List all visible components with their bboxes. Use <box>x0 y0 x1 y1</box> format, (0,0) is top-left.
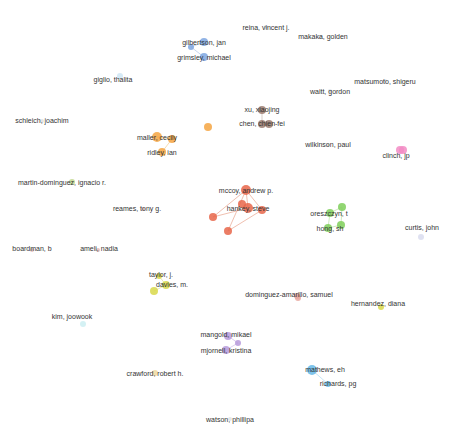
node-label[interactable]: matsumoto, shigeru <box>354 78 415 85</box>
node-label[interactable]: chen, chien-fei <box>239 120 285 127</box>
node-label[interactable]: davies, m. <box>156 281 188 288</box>
network-node[interactable] <box>418 234 424 240</box>
node-label[interactable]: mathews, eh <box>305 366 345 373</box>
node-label[interactable]: mccoy, andrew p. <box>219 187 273 194</box>
network-node[interactable] <box>224 227 232 235</box>
node-label[interactable]: hernandez, diana <box>351 300 405 307</box>
node-label[interactable]: ameli, nadia <box>80 245 118 252</box>
node-label[interactable]: reina, vincent j. <box>242 24 289 31</box>
network-node[interactable] <box>209 213 217 221</box>
network-node[interactable] <box>235 340 241 346</box>
node-label[interactable]: oreszczyn, t <box>310 210 347 217</box>
network-node[interactable] <box>150 287 158 295</box>
node-label[interactable]: curtis, john <box>405 224 439 231</box>
node-label[interactable]: clinch, jp <box>382 152 409 159</box>
node-label[interactable]: wilkinson, paul <box>305 141 351 148</box>
node-label[interactable]: taylor, j. <box>149 271 173 278</box>
node-label[interactable]: reames, tony g. <box>113 205 161 212</box>
network-node[interactable] <box>204 123 212 131</box>
network-canvas[interactable]: reina, vincent j.makaka, goldengilbertso… <box>0 0 465 435</box>
node-label[interactable]: maller, cecily <box>137 134 177 141</box>
node-label[interactable]: giglio, thalita <box>94 76 133 83</box>
node-label[interactable]: hankey, steve <box>227 205 270 212</box>
network-node[interactable] <box>80 321 86 327</box>
node-label[interactable]: schleich, joachim <box>15 117 68 124</box>
node-label[interactable]: dominguez-amarillo, samuel <box>245 291 333 298</box>
node-label[interactable]: waitt, gordon <box>310 88 350 95</box>
node-label[interactable]: makaka, golden <box>298 33 347 40</box>
edge-layer <box>0 0 465 435</box>
node-label[interactable]: kim, joowook <box>52 313 92 320</box>
node-label[interactable]: grimsley, michael <box>177 54 231 61</box>
node-label[interactable]: richards, pg <box>320 380 357 387</box>
node-label[interactable]: mangold, mikael <box>201 331 252 338</box>
node-label[interactable]: watson, phillipa <box>206 416 254 423</box>
node-label[interactable]: crawford, robert h. <box>127 370 184 377</box>
node-label[interactable]: boardman, b <box>12 245 51 252</box>
node-label[interactable]: martin-dominguez, ignacio r. <box>18 179 106 186</box>
node-label[interactable]: hong, sh <box>317 225 344 232</box>
node-label[interactable]: xu, xiaojing <box>244 106 279 113</box>
node-label[interactable]: gilbertson, jan <box>182 39 226 46</box>
node-label[interactable]: ridley, ian <box>147 149 176 156</box>
node-label[interactable]: mjornell, kristina <box>201 347 252 354</box>
